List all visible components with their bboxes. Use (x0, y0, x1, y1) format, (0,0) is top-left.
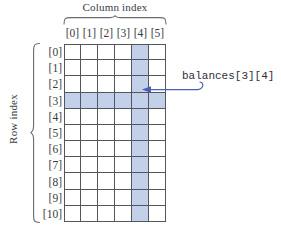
grid-cell-6-1[interactable] (81, 141, 98, 157)
grid-cell-1-2[interactable] (98, 60, 115, 76)
grid-cell-6-5[interactable] (149, 141, 166, 157)
grid-cell-0-0[interactable] (64, 44, 81, 60)
grid-cell-6-4[interactable] (132, 141, 149, 157)
grid-cell-9-2[interactable] (98, 190, 115, 206)
grid-cell-5-1[interactable] (81, 125, 98, 141)
grid-cell-0-4[interactable] (132, 44, 149, 60)
row-header-5: [5] (40, 125, 63, 141)
grid-cell-4-0[interactable] (64, 109, 81, 125)
array-grid (64, 44, 166, 222)
grid-cell-9-4[interactable] (132, 190, 149, 206)
grid-cell-4-3[interactable] (115, 109, 132, 125)
grid-cell-1-4[interactable] (132, 60, 149, 76)
grid-cell-6-0[interactable] (64, 141, 81, 157)
grid-cell-6-2[interactable] (98, 141, 115, 157)
grid-cell-7-3[interactable] (115, 157, 132, 173)
grid-cell-9-5[interactable] (149, 190, 166, 206)
grid-cell-5-4[interactable] (132, 125, 149, 141)
grid-cell-3-0[interactable] (64, 93, 81, 109)
grid-cell-1-1[interactable] (81, 60, 98, 76)
grid-cell-2-0[interactable] (64, 76, 81, 92)
grid-cell-2-2[interactable] (98, 76, 115, 92)
grid-cell-4-2[interactable] (98, 109, 115, 125)
column-header-0: [0] (64, 26, 81, 41)
column-header-5: [5] (149, 26, 166, 41)
grid-cell-6-3[interactable] (115, 141, 132, 157)
grid-cell-1-0[interactable] (64, 60, 81, 76)
grid-cell-9-1[interactable] (81, 190, 98, 206)
column-header-1: [1] (81, 26, 98, 41)
grid-cell-2-1[interactable] (81, 76, 98, 92)
grid-cell-7-4[interactable] (132, 157, 149, 173)
row-header-9: [9] (40, 190, 63, 206)
grid-cell-9-3[interactable] (115, 190, 132, 206)
grid-cell-1-5[interactable] (149, 60, 166, 76)
grid-cell-8-3[interactable] (115, 173, 132, 189)
grid-cell-4-1[interactable] (81, 109, 98, 125)
row-index-caption: Row index (7, 87, 19, 151)
grid-cell-5-5[interactable] (149, 125, 166, 141)
grid-cell-10-5[interactable] (149, 206, 166, 222)
grid-cell-7-2[interactable] (98, 157, 115, 173)
grid-cell-1-3[interactable] (115, 60, 132, 76)
annotation-arrow-icon (136, 80, 216, 106)
grid-cell-3-2[interactable] (98, 93, 115, 109)
grid-cell-0-5[interactable] (149, 44, 166, 60)
grid-cell-0-3[interactable] (115, 44, 132, 60)
grid-cell-5-0[interactable] (64, 125, 81, 141)
row-header-1: [1] (40, 60, 63, 76)
row-header-4: [4] (40, 109, 63, 125)
column-header-3: [3] (115, 26, 132, 41)
grid-cell-8-4[interactable] (132, 173, 149, 189)
row-header-8: [8] (40, 174, 63, 190)
grid-cell-3-3[interactable] (115, 93, 132, 109)
column-brace-icon (62, 15, 168, 25)
grid-cell-8-1[interactable] (81, 173, 98, 189)
row-header-10: [10] (40, 206, 63, 222)
grid-cell-4-5[interactable] (149, 109, 166, 125)
grid-cell-5-3[interactable] (115, 125, 132, 141)
column-header-2: [2] (98, 26, 115, 41)
grid-cell-10-0[interactable] (64, 206, 81, 222)
column-header-4: [4] (132, 26, 149, 41)
grid-cell-7-0[interactable] (64, 157, 81, 173)
grid-cell-5-2[interactable] (98, 125, 115, 141)
array-index-diagram: Column index [0] [1] [2] [3] [4] [5] Row… (0, 0, 281, 233)
grid-cell-4-4[interactable] (132, 109, 149, 125)
grid-cell-2-3[interactable] (115, 76, 132, 92)
column-index-caption: Column index (64, 1, 166, 13)
grid-cell-10-1[interactable] (81, 206, 98, 222)
grid-cell-10-2[interactable] (98, 206, 115, 222)
grid-cell-8-5[interactable] (149, 173, 166, 189)
grid-cell-7-5[interactable] (149, 157, 166, 173)
row-header-3: [3] (40, 93, 63, 109)
grid-cell-3-1[interactable] (81, 93, 98, 109)
row-header-column: [0] [1] [2] [3] [4] [5] [6] [7] [8] [9] … (40, 44, 63, 222)
grid-cell-10-4[interactable] (132, 206, 149, 222)
row-header-7: [7] (40, 157, 63, 173)
grid-cell-8-2[interactable] (98, 173, 115, 189)
grid-cell-8-0[interactable] (64, 173, 81, 189)
grid-cell-10-3[interactable] (115, 206, 132, 222)
grid-cell-0-2[interactable] (98, 44, 115, 60)
grid-cell-0-1[interactable] (81, 44, 98, 60)
grid-cell-9-0[interactable] (64, 190, 81, 206)
grid-cell-7-1[interactable] (81, 157, 98, 173)
column-header-row: [0] [1] [2] [3] [4] [5] (64, 26, 166, 41)
row-header-2: [2] (40, 76, 63, 92)
row-header-0: [0] (40, 44, 63, 60)
row-header-6: [6] (40, 141, 63, 157)
